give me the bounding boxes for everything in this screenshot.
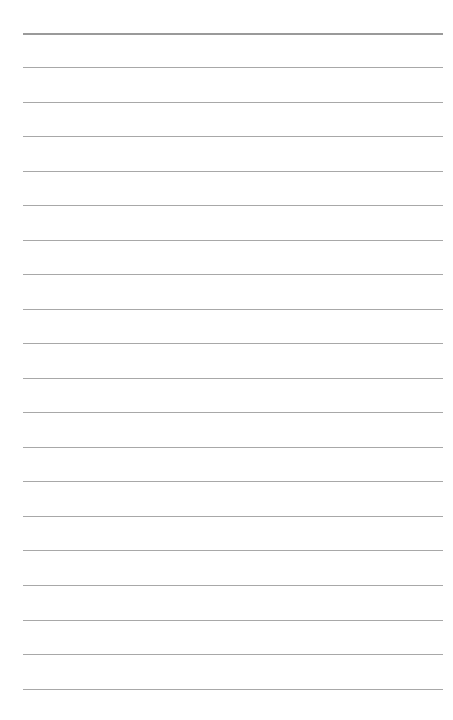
header-rule-line	[23, 33, 443, 35]
rule-line	[23, 516, 443, 517]
rule-line	[23, 343, 443, 344]
rule-line	[23, 620, 443, 621]
rule-line	[23, 481, 443, 482]
rule-line	[23, 171, 443, 172]
rule-line	[23, 67, 443, 68]
rule-line	[23, 654, 443, 655]
rule-line	[23, 240, 443, 241]
rule-line	[23, 585, 443, 586]
rule-line	[23, 309, 443, 310]
rule-line	[23, 550, 443, 551]
rule-line	[23, 689, 443, 690]
rule-line	[23, 447, 443, 448]
rule-line	[23, 205, 443, 206]
rule-line	[23, 378, 443, 379]
rule-line	[23, 136, 443, 137]
rule-line	[23, 412, 443, 413]
lined-paper-page	[0, 0, 453, 720]
rule-line	[23, 102, 443, 103]
rule-line	[23, 274, 443, 275]
